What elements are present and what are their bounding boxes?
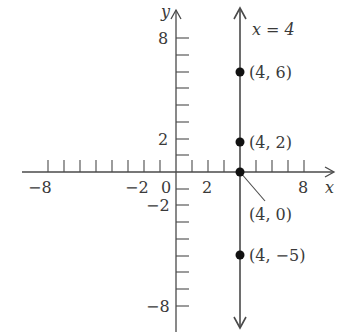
point-4-neg5 [236, 251, 245, 260]
coordinate-plane: y x x = 4 −8 −2 0 2 8 8 2 −2 −8 (4, 6) (… [0, 0, 347, 335]
x-axis [22, 160, 334, 177]
point-label-4-2: (4, 2) [249, 133, 292, 152]
y-tick-label-8: 8 [158, 29, 168, 48]
y-axis-label: y [160, 2, 171, 21]
point-4-0-leader-line [240, 172, 265, 201]
point-label-4-6: (4, 6) [249, 63, 292, 82]
line-equation-label: x = 4 [252, 20, 295, 39]
x-tick-label-0: 0 [161, 178, 171, 197]
x-tick-label-8: 8 [298, 178, 308, 197]
x-tick-label-neg2: −2 [125, 178, 149, 197]
point-4-2 [236, 138, 245, 147]
y-tick-label-2: 2 [158, 130, 168, 149]
y-tick-label-neg8: −8 [146, 297, 170, 316]
x-axis-label: x [325, 178, 334, 197]
point-4-6 [236, 68, 245, 77]
y-tick-label-neg2: −2 [146, 196, 170, 215]
point-label-4-0: (4, 0) [249, 205, 292, 224]
point-4-0 [236, 168, 245, 177]
x-tick-label-neg8: −8 [28, 178, 52, 197]
x-tick-label-2: 2 [202, 178, 212, 197]
y-axis [171, 10, 189, 332]
point-label-4-neg5: (4, −5) [249, 246, 305, 265]
